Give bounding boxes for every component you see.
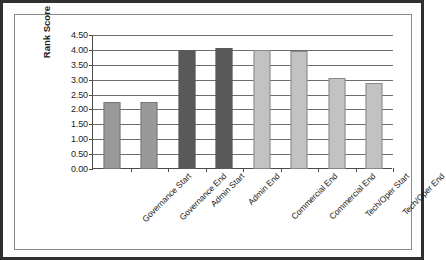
y-axis-title: Rank Score [41,0,52,67]
y-axis-tick-label: 1.00 [71,134,88,144]
bar[interactable] [216,48,233,169]
bar-slot [206,35,244,169]
chart-object-frame: Rank Score 0.000.501.001.502.002.503.003… [14,14,412,250]
bar[interactable] [366,83,383,169]
bars-group [93,35,393,169]
y-axis-tick-label: 2.50 [71,90,88,100]
y-axis-tick-label: 1.50 [71,119,88,129]
bar-slot [243,35,281,169]
bar-slot [131,35,169,169]
bar-slot [318,35,356,169]
plot-area: 0.000.501.001.502.002.503.003.504.004.50 [92,35,392,169]
y-axis-tick-label: 4.50 [71,30,88,40]
y-axis-tick-mark [89,169,93,170]
bar[interactable] [291,51,308,169]
y-axis-tick-label: 0.00 [71,164,88,174]
y-axis-tick-label: 2.00 [71,104,88,114]
y-axis-tick-label: 4.00 [71,45,88,55]
x-axis-category-label: Admin End [246,171,282,207]
bar-slot [281,35,319,169]
bar[interactable] [103,102,120,169]
bar-slot [93,35,131,169]
y-axis-tick-label: 3.50 [71,60,88,70]
bar-slot [356,35,394,169]
bar[interactable] [141,102,158,169]
bar[interactable] [253,50,270,169]
x-axis-labels-group: Governance StartGovernance EndAdmin Star… [92,171,392,249]
y-axis-tick-label: 3.00 [71,75,88,85]
bar[interactable] [328,78,345,169]
y-axis-tick-label: 0.50 [71,149,88,159]
bar[interactable] [178,50,195,169]
x-axis-tick-mark [393,168,394,172]
bar-slot [168,35,206,169]
